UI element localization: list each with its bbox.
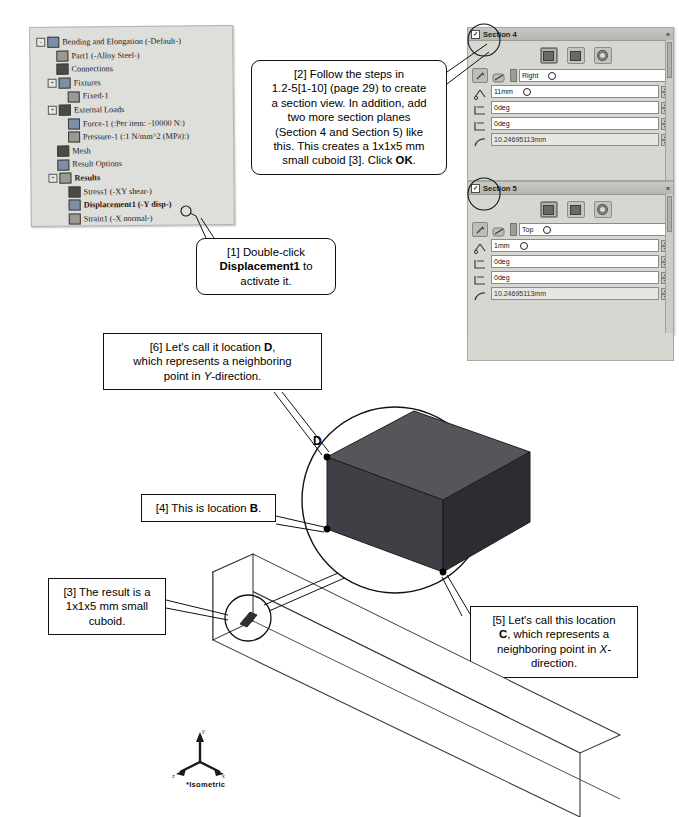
callout-5-line-3: neighboring point in X- [478, 642, 630, 656]
section-type-toolbar[interactable] [482, 201, 669, 218]
panel-row-offset[interactable]: 1mm▴▾ [472, 239, 669, 252]
scrollbar-thumb[interactable] [667, 196, 672, 232]
reference-color-swatch [510, 223, 517, 236]
panel-scrollbar[interactable] [665, 40, 673, 180]
reference-field[interactable]: Right [519, 69, 669, 82]
section-round-icon[interactable] [594, 201, 612, 218]
rotate-y-field[interactable]: 0deg [491, 271, 659, 284]
callout-2-line-4: two more section planes [259, 110, 439, 124]
study-icon [47, 37, 59, 48]
panel-row-reference[interactable]: Top [472, 223, 669, 236]
select-reference-button[interactable] [472, 68, 488, 83]
callout-step-6: [6] Let's call it location D, which repr… [103, 333, 322, 390]
cuboid-side-face [443, 452, 530, 572]
strain-icon [69, 213, 81, 224]
rotate-y-icon [472, 272, 488, 284]
section-5-property-panel[interactable]: ✓Section 5«Top1mm▴▾0deg▴▾0deg▴▾10.246951… [467, 181, 674, 335]
tree-expander-toggle[interactable]: - [36, 38, 45, 47]
callout-2-line-7-prefix: small cuboid [3]. Click [282, 154, 395, 166]
callout-4-prefix: [4] This is location [156, 502, 250, 514]
panel-enable-checkbox[interactable]: ✓ [471, 30, 480, 39]
offset-value: 11mm [494, 88, 513, 95]
reverse-direction-toggle[interactable] [520, 242, 528, 250]
fixed-icon [68, 91, 80, 102]
callout-5-line-1: [5] Let's call this location [478, 613, 630, 627]
tree-item-label: Displacement1 (-Y disp-) [84, 198, 172, 212]
panel-enable-checkbox[interactable]: ✓ [471, 184, 480, 193]
tree-expander-toggle[interactable]: + [48, 79, 57, 88]
callout-6-line-1-prefix: [6] Let's call it location [150, 341, 264, 353]
reference-value: Right [522, 72, 538, 79]
reference-value: Top [522, 226, 533, 233]
callout-2-ok-term: OK [396, 154, 413, 166]
panel-row-reference[interactable]: Right [472, 69, 669, 82]
tree-item-label: Stress1 (-XY shear-) [84, 184, 152, 198]
panel-row-rotate-x[interactable]: 0deg▴▾ [472, 255, 669, 268]
panel-header[interactable]: ✓Section 5« [468, 182, 673, 195]
rotate-x-field[interactable]: 0deg [491, 101, 659, 114]
chevron-up-icon[interactable]: « [666, 185, 670, 192]
section-plane-icon[interactable] [540, 47, 558, 64]
reverse-direction-toggle[interactable] [523, 88, 531, 96]
callout-2-line-1: [2] Follow the steps in [259, 67, 439, 81]
tree-item-strain[interactable]: Strain1 (-X normal-) [38, 211, 230, 226]
study-tree-list[interactable]: -Bending and Elongation (-Default-)Part1… [30, 26, 234, 226]
offset-field[interactable]: 1mm [491, 239, 659, 252]
panel-row-offset[interactable]: 11mm▴▾ [472, 85, 669, 98]
callout-6-line-3-prefix: point in [164, 370, 204, 382]
callout-step-3: [3] The result is a 1x1x5 mm small cuboi… [48, 578, 166, 635]
simulation-study-tree-panel[interactable]: -Bending and Elongation (-Default-)Part1… [29, 25, 235, 227]
tree-expander-toggle[interactable]: + [48, 106, 57, 115]
callout-4-suffix: . [258, 502, 261, 514]
panel-scrollbar[interactable] [665, 194, 673, 334]
panel-row-arc[interactable]: 10.24695113mm▴▾ [472, 133, 669, 146]
panel-title: Section 4 [483, 30, 517, 39]
section-plane-icon[interactable] [540, 201, 558, 218]
displacement-icon [69, 200, 81, 211]
leader-line-step-5 [442, 575, 470, 616]
callout-3-line-1: [3] The result is a [56, 585, 158, 599]
section-round-icon[interactable] [594, 47, 612, 64]
offset-field[interactable]: 11mm [491, 85, 659, 98]
reverse-direction-toggle[interactable] [548, 72, 556, 80]
rotate-y-icon [472, 118, 488, 130]
tree-expander-toggle[interactable]: + [48, 174, 57, 183]
cuboid-vertex-dots [324, 454, 447, 576]
section-type-toolbar[interactable] [482, 47, 669, 64]
rotate-x-icon [472, 256, 488, 268]
section-zebra-icon[interactable] [567, 201, 585, 218]
rotate-y-field[interactable]: 0deg [491, 117, 659, 130]
section-zebra-icon[interactable] [567, 47, 585, 64]
detail-zoom-circle-large [302, 407, 488, 593]
select-reference-button[interactable] [472, 222, 488, 237]
callout-2-line-2: 1.2-5[1-10] (page 29) to create [259, 81, 439, 95]
callout-step-5: [5] Let's call this location C, which re… [470, 606, 638, 678]
magnified-cuboid [327, 411, 530, 572]
offset-icon [472, 86, 488, 98]
section-plane-icon-glyph [543, 205, 554, 215]
section-zebra-icon-glyph [570, 51, 581, 61]
scrollbar-thumb[interactable] [667, 42, 672, 78]
panel-row-arc[interactable]: 10.24695113mm▴▾ [472, 287, 669, 300]
reference-field[interactable]: Top [519, 223, 669, 236]
panel-row-rotate-y[interactable]: 0deg▴▾ [472, 117, 669, 130]
tree-item-label: External Loads [74, 103, 125, 117]
callout-5-axis-x: X- [600, 643, 611, 655]
point-label-b: B [313, 533, 322, 547]
rotate-x-field[interactable]: 0deg [491, 255, 659, 268]
section-4-property-panel[interactable]: ✓Section 4«Right11mm▴▾0deg▴▾0deg▴▾10.246… [467, 27, 674, 181]
panel-header[interactable]: ✓Section 4« [468, 28, 673, 41]
arc-field[interactable]: 10.24695113mm [491, 133, 659, 146]
reference-color-swatch [510, 69, 517, 82]
reverse-direction-toggle[interactable] [543, 226, 551, 234]
arc-field[interactable]: 10.24695113mm [491, 287, 659, 300]
arc-value: 10.24695113mm [494, 290, 546, 297]
callout-5-line-2: C, which represents a [478, 627, 630, 641]
panel-row-rotate-y[interactable]: 0deg▴▾ [472, 271, 669, 284]
callout-6-line-2: which represents a neighboring [111, 354, 314, 368]
chevron-up-icon[interactable]: « [666, 31, 670, 38]
panel-row-rotate-x[interactable]: 0deg▴▾ [472, 101, 669, 114]
callout-1-bold-term: Displacement1 [219, 260, 299, 272]
tree-item-label: Fixed-1 [83, 90, 109, 104]
isometric-axis-arrowheads [176, 732, 224, 776]
